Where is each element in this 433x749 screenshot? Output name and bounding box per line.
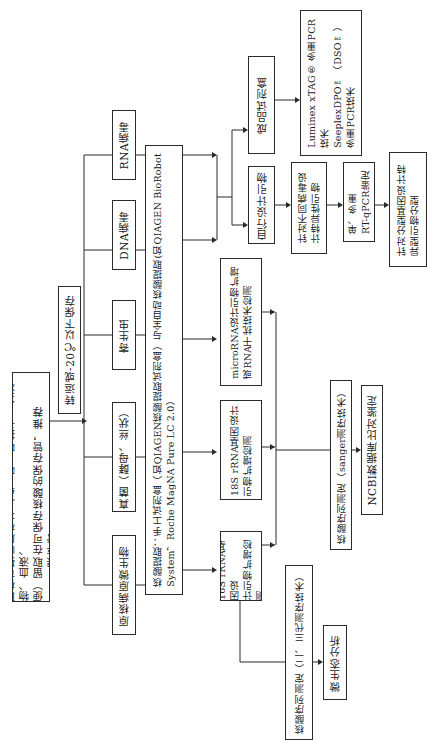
node-label: 针对分型基因设计特 异型引物分型 [395, 164, 421, 256]
node-fungi: 真菌（酵母、丝状） [112, 402, 136, 512]
node-label: RNA病毒 [117, 120, 131, 169]
arrow-icon [212, 237, 217, 243]
node-label: NCBI数据库比对鉴定 [365, 394, 379, 506]
node-label: 取样可疑临床标本（鼻、喉、咽拭子、分泌物、血液、 便）留取在可保存核酸的保存管，… [12, 373, 50, 601]
node-dna-virus: DNA病毒 [112, 200, 136, 270]
arrow-icon [270, 444, 275, 450]
node-label: 微生态分析 [328, 634, 342, 692]
node-label: 转运或-20℃以下保存 [63, 294, 77, 405]
node-genotype: 针对分型基因设计特 异型引物分型 [389, 152, 427, 267]
node-microrna: microRNA设计引物扩增 或RNA干扰技术检测 [220, 258, 262, 386]
node-parasite: 寄生虫 [112, 300, 136, 370]
node-label: DNA病毒 [117, 210, 131, 260]
node-multiplex: Luminex xTAG® 多重PCR 技术 SeeplexDPO™（DSO™）… [300, 10, 362, 156]
arrow-icon [212, 449, 217, 455]
node-ncbi: NCBI数据库比对鉴定 [361, 385, 383, 515]
node-ngs: 核酸序列测定（二、三代测序技术） [285, 565, 313, 740]
node-rtqpcr: 单、多重 RT-qPCR鉴定 [343, 162, 375, 242]
node-kit: 成品试剂盒 [248, 56, 275, 154]
node-prokaryote: 原核病原微生物 [112, 535, 136, 635]
node-virus-primer: 针对不同病毒设 计特异性引物 [291, 162, 327, 254]
node-label: 18S rRNA基因设计 引物扩增检测 [228, 405, 254, 496]
node-label: 16S rRNA基因设 计引物扩增检测 [220, 532, 262, 600]
node-label: 成品试剂盒 [255, 76, 269, 134]
node-transport: 转运或-20℃以下保存 [58, 286, 81, 414]
node-self-primer: 自行设计引物 [248, 166, 275, 244]
node-18s-rrna: 18S rRNA基因设计 引物扩增检测 [220, 400, 262, 500]
node-label: 原核病原微生物 [117, 545, 131, 626]
node-rna-virus: RNA病毒 [112, 110, 136, 180]
node-label: 真菌（酵母、丝状） [117, 405, 131, 509]
node-extraction: 核酸提取：手工试剂盒（如QIAGEN核酸提取试剂盒）与全自动核酸提取(如QIAG… [145, 145, 183, 595]
node-label: 针对不同病毒设 计特异性引物 [296, 172, 322, 243]
node-label: 寄生虫 [117, 318, 131, 353]
arrow-icon [212, 152, 217, 158]
arrow-icon [212, 336, 217, 342]
node-label: 核酸提取：手工试剂盒（如QIAGEN核酸提取试剂盒）与全自动核酸提取(如QIAG… [151, 153, 177, 587]
node-label: microRNA设计引物扩增 或RNA干扰技术检测 [228, 266, 254, 379]
arrow-icon [212, 567, 217, 573]
arrow-icon [270, 309, 275, 315]
node-label: 核酸序列测定（sanger测序技术） [335, 387, 348, 544]
node-label: 自行设计引物 [255, 171, 269, 240]
node-sampling: 取样可疑临床标本（鼻、喉、咽拭子、分泌物、血液、 便）留取在可保存核酸的保存管，… [12, 372, 50, 602]
node-label: 核酸序列测定（二、三代测序技术） [293, 571, 306, 734]
node-16s-rrna: 16S rRNA基因设 计引物扩增检测 [220, 531, 262, 601]
node-microecology: 微生态分析 [323, 625, 347, 700]
node-label: 单、多重 RT-qPCR鉴定 [346, 170, 372, 234]
arrow-icon [270, 542, 275, 548]
node-sanger: 核酸序列测定（sanger测序技术） [330, 380, 352, 550]
node-label: Luminex xTAG® 多重PCR 技术 SeeplexDPO™（DSO™）… [305, 19, 357, 148]
